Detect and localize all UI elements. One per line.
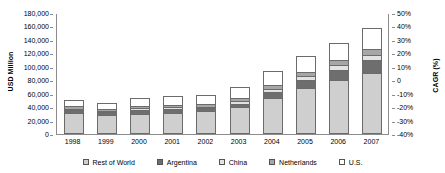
- y-axis-left-tick-label: 60,000: [28, 91, 49, 99]
- y-axis-right-tickmark: [392, 54, 395, 55]
- legend-swatch-icon: [269, 159, 275, 165]
- y-axis-right-tickmark: [392, 95, 395, 96]
- y-axis-left-tickmark: [50, 81, 53, 82]
- y-axis-left-tick-label: 0: [45, 131, 49, 139]
- y-axis-right-tickmark: [392, 27, 395, 28]
- y-axis-right-tickmark: [392, 81, 395, 82]
- bar-segment: [130, 114, 150, 135]
- y-axis-right-tickmark: [392, 108, 395, 109]
- bar-segment: [97, 115, 117, 134]
- y-axis-left-tick-label: 40,000: [28, 104, 49, 112]
- bar-column: [296, 56, 316, 134]
- y-axis-left-tick-label: 180,000: [24, 10, 49, 18]
- legend-swatch-icon: [157, 159, 163, 165]
- bar-segment: [296, 88, 316, 134]
- bar-column: [263, 71, 283, 134]
- x-axis-tick-label: 1999: [88, 137, 124, 147]
- y-axis-right-tick-label: -40%: [397, 131, 413, 139]
- y-axis-right-tick-label: -20%: [397, 104, 413, 112]
- x-axis-tick-label: 1998: [55, 137, 91, 147]
- y-axis-left-tickmark: [50, 108, 53, 109]
- y-axis-right-line: [388, 14, 389, 135]
- legend-swatch-icon: [219, 159, 225, 165]
- bar-column: [97, 103, 117, 134]
- y-axis-left-tick-label: 160,000: [24, 23, 49, 31]
- bar-column: [64, 100, 84, 134]
- legend-item[interactable]: Rest of World: [83, 158, 135, 167]
- x-axis-tick-label: 2000: [121, 137, 157, 147]
- plot-area: [56, 14, 388, 135]
- y-axis-right-tickmark: [392, 122, 395, 123]
- x-axis-tick-label: 2004: [254, 137, 290, 147]
- y-axis-left-tickmark: [50, 54, 53, 55]
- bar-segment: [296, 56, 316, 71]
- bar-column: [230, 87, 250, 134]
- bar-segment: [362, 60, 382, 72]
- y-axis-left-tickmark: [50, 41, 53, 42]
- legend-item[interactable]: Netherlands: [269, 158, 317, 167]
- y-axis-right-tick-label: 20%: [397, 50, 411, 58]
- y-axis-left-tick-label: 120,000: [24, 50, 49, 58]
- y-axis-right-tickmark: [392, 135, 395, 136]
- y-axis-left-tickmark: [50, 27, 53, 28]
- bar-segment: [263, 98, 283, 134]
- y-axis-left-tickmark: [50, 95, 53, 96]
- legend-item[interactable]: Argentina: [157, 158, 197, 167]
- x-axis-tick-label: 2003: [221, 137, 257, 147]
- legend-swatch-icon: [339, 159, 345, 165]
- legend-label: U.S.: [349, 158, 363, 167]
- bar-segment: [362, 28, 382, 50]
- bar-column: [329, 43, 349, 134]
- bar-segment: [163, 96, 183, 104]
- y-axis-right-tick-label: 0: [397, 77, 401, 85]
- y-axis-left-ticks: 020,00040,00060,00080,000100,000120,0001…: [0, 0, 53, 173]
- bar-segment: [329, 70, 349, 80]
- y-axis-left-tick-label: 140,000: [24, 37, 49, 45]
- x-axis-tick-labels: 1998199920002001200220032004200520062007: [56, 137, 388, 149]
- y-axis-left-tick-label: 100,000: [24, 64, 49, 72]
- bar-segment: [230, 107, 250, 134]
- x-axis-tick-label: 2002: [187, 137, 223, 147]
- chart-legend: Rest of WorldArgentinaChinaNetherlandsU.…: [0, 155, 445, 169]
- bar-segment: [329, 43, 349, 60]
- legend-item[interactable]: China: [219, 158, 247, 167]
- y-axis-left-tick-label: 80,000: [28, 77, 49, 85]
- bar-segment: [329, 80, 349, 134]
- bar-column: [130, 98, 150, 134]
- bar-segment: [130, 98, 150, 106]
- y-axis-left-tickmark: [50, 14, 53, 15]
- y-axis-left-tick-label: 20,000: [28, 118, 49, 126]
- bar-segment: [362, 73, 382, 134]
- legend-label: Argentina: [167, 158, 197, 167]
- bar-segment: [230, 87, 250, 98]
- y-axis-left-tickmark: [50, 122, 53, 123]
- y-axis-right-ticks: -40%-30%-20%-10%010%20%30%40%50%: [392, 0, 444, 173]
- legend-swatch-icon: [83, 159, 89, 165]
- legend-label: Rest of World: [93, 158, 135, 167]
- x-axis-tick-label: 2007: [353, 137, 389, 147]
- y-axis-right-tick-label: 10%: [397, 64, 411, 72]
- y-axis-left-tickmark: [50, 135, 53, 136]
- bar-segment: [196, 111, 216, 134]
- x-axis-tick-label: 2005: [287, 137, 323, 147]
- bar-column: [196, 95, 216, 134]
- bar-segment: [296, 80, 316, 88]
- y-axis-right-tick-label: 30%: [397, 37, 411, 45]
- x-axis-tick-label: 2001: [154, 137, 190, 147]
- legend-label: China: [229, 158, 247, 167]
- y-axis-right-tick-label: 50%: [397, 10, 411, 18]
- x-axis-tick-label: 2006: [320, 137, 356, 147]
- y-axis-left-tickmark: [50, 68, 53, 69]
- y-axis-right-tickmark: [392, 41, 395, 42]
- bar-segment: [196, 95, 216, 104]
- bar-segment: [64, 113, 84, 134]
- bar-group: [57, 14, 388, 134]
- bar-column: [362, 28, 382, 134]
- legend-item[interactable]: U.S.: [339, 158, 363, 167]
- legend-label: Netherlands: [279, 158, 317, 167]
- bar-segment: [163, 113, 183, 135]
- y-axis-right-tick-label: -10%: [397, 91, 413, 99]
- y-axis-right-tick-label: 40%: [397, 23, 411, 31]
- bar-segment: [263, 71, 283, 85]
- y-axis-right-tickmark: [392, 14, 395, 15]
